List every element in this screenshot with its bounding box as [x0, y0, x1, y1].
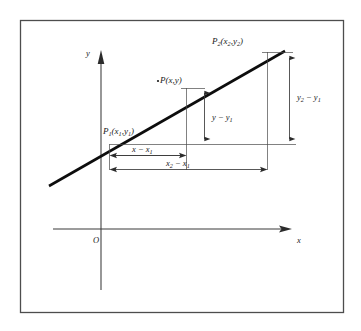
- slope-diagram: y x O y2 − y1: [0, 0, 361, 331]
- point-label-P2: P2(x2,y2): [211, 36, 243, 47]
- point-label-P: P(x,y): [159, 75, 182, 85]
- origin-label: O: [93, 235, 99, 245]
- dimension-dy-outer: y2 − y1: [268, 58, 321, 145]
- point-marker-P: [157, 80, 159, 82]
- dx-outer-label: x2 − x1: [165, 158, 190, 169]
- point-label-P1: P1(x1,y1): [102, 126, 134, 137]
- dimension-dy-inner: y − y1: [205, 93, 233, 139]
- y-axis-arrowhead: [98, 50, 105, 64]
- y-axis-label: y: [85, 48, 90, 58]
- figure-container: y x O y2 − y1: [0, 0, 361, 331]
- dy-inner-label: y − y1: [211, 112, 233, 123]
- dimension-dx-outer: x2 − x1: [110, 158, 268, 172]
- dy-outer-label: y2 − y1: [296, 92, 321, 103]
- x-axis-label: x: [296, 235, 301, 245]
- dx-inner-label: x − x1: [131, 144, 153, 155]
